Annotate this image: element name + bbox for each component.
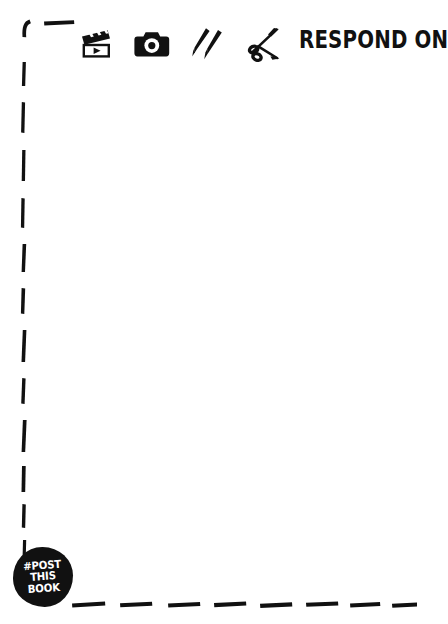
bottom-dash-3 <box>168 602 200 608</box>
left-dash-4 <box>21 198 25 228</box>
bottom-dash-2 <box>120 602 152 607</box>
left-dash-1 <box>22 62 26 86</box>
left-dash-9 <box>22 420 27 452</box>
bottom-dash-6 <box>306 601 338 606</box>
bottom-dash-8 <box>392 602 417 607</box>
left-dash-6 <box>21 288 25 314</box>
bottom-dash-7 <box>350 602 380 607</box>
headline-text: RESPOND ON <box>299 26 448 54</box>
icon-row <box>68 18 292 70</box>
left-dash-8 <box>21 378 25 404</box>
left-dash-3 <box>22 150 26 181</box>
left-dash-5 <box>22 244 27 272</box>
post-this-book-stamp[interactable]: #POST THIS BOOK <box>13 547 73 607</box>
bottom-dash-1 <box>72 602 105 608</box>
bottom-dash-4 <box>214 601 246 607</box>
bottom-dash-5 <box>260 602 292 608</box>
left-dash-2 <box>21 102 25 133</box>
corner-hook <box>22 20 30 38</box>
left-dash-11 <box>22 504 26 528</box>
camera-icon[interactable] <box>124 18 180 70</box>
pens-icon[interactable] <box>180 18 236 70</box>
left-dash-7 <box>22 330 27 362</box>
clapperboard-icon[interactable] <box>68 18 124 70</box>
stamp-text: #POST THIS BOOK <box>13 545 72 609</box>
stamp-line-3: BOOK <box>27 582 60 596</box>
left-dash-10 <box>22 466 26 492</box>
scissors-icon[interactable] <box>236 18 292 70</box>
